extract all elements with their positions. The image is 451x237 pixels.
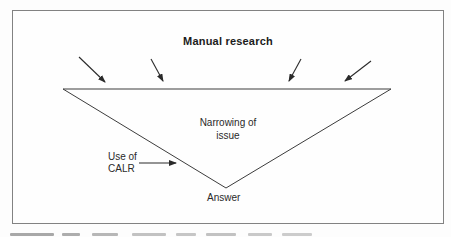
page: Manual research Narrowing of issue Use o… xyxy=(0,0,451,237)
narrowing-label-line2: issue xyxy=(13,129,443,142)
calr-label-line2: CALR xyxy=(108,163,137,175)
narrowing-of-issue-label: Narrowing of issue xyxy=(13,116,443,142)
caption-fragment xyxy=(206,233,236,236)
cropped-caption-remnant xyxy=(10,233,312,237)
caption-fragment xyxy=(282,233,312,236)
caption-fragment xyxy=(62,233,80,236)
caption-fragment xyxy=(176,233,196,236)
caption-fragment xyxy=(10,233,54,236)
answer-label: Answer xyxy=(13,192,434,203)
use-of-calr-label: Use of CALR xyxy=(108,151,137,175)
manual-research-arrow-down-left-icon xyxy=(289,59,301,81)
manual-research-arrow-down-left-icon xyxy=(345,61,371,81)
diagram-panel: Manual research Narrowing of issue Use o… xyxy=(12,10,444,224)
caption-fragment xyxy=(132,233,166,236)
caption-fragment xyxy=(248,233,272,236)
diagram-title: Manual research xyxy=(13,35,443,47)
manual-research-arrow-down-right-icon xyxy=(151,59,163,81)
manual-research-arrow-down-right-icon xyxy=(79,57,105,82)
caption-fragment xyxy=(92,233,118,236)
narrowing-label-line1: Narrowing of xyxy=(13,116,443,129)
calr-label-line1: Use of xyxy=(108,151,137,163)
